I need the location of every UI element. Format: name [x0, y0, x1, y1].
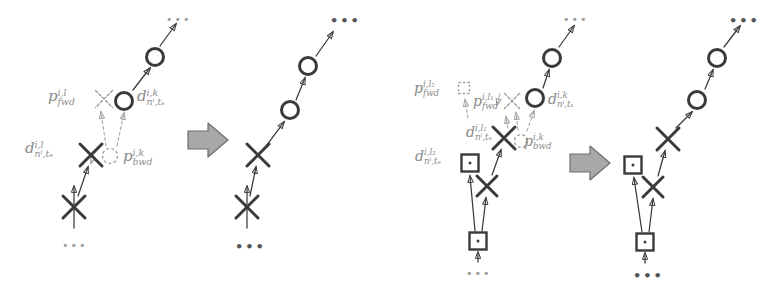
label-subscript: bwd: [133, 157, 153, 166]
label-base-symbol: p: [123, 147, 133, 165]
circle-marker: [300, 58, 317, 75]
label-subscript: fwd: [58, 97, 75, 106]
circle-marker: [689, 92, 706, 109]
track-link-arrow: [470, 176, 475, 231]
label-base-symbol: d: [415, 148, 424, 164]
label-subscript: nⁱ,tₑ: [35, 149, 53, 158]
ellipsis-continuation: •••: [235, 240, 266, 253]
cross-marker: [643, 177, 663, 197]
proposed-link-arrow: [101, 112, 106, 146]
p-fwd-l1-label: pi,l₁fwd: [473, 93, 498, 110]
circle-marker: [709, 50, 726, 67]
track-link-arrow: [724, 26, 740, 47]
cross-marker: [657, 128, 679, 150]
ellipsis-continuation: •••: [62, 240, 87, 251]
proposed-link-arrow: [527, 111, 534, 131]
ghost-circle-marker: [103, 149, 118, 164]
label-subscript: bwd: [533, 142, 552, 151]
label-base-symbol: d: [25, 139, 35, 157]
track-link-arrow: [78, 167, 88, 196]
track-link-arrow: [250, 167, 256, 196]
circle-marker: [282, 102, 299, 119]
ghost-cross-marker: [505, 94, 520, 109]
proposed-link-arrow: [506, 117, 508, 128]
label-base-symbol: p: [524, 133, 533, 149]
square-center-dot: [477, 240, 480, 243]
track-link-arrow: [316, 32, 333, 56]
track-link-arrow: [492, 150, 501, 175]
d-end-l2-label: di,l₂nⁱ,tₑ: [415, 148, 441, 165]
track-link-arrow: [658, 151, 665, 176]
track-link-arrow: [266, 122, 284, 146]
track-link-arrow: [649, 199, 653, 232]
proposed-link-arrow: [117, 113, 124, 146]
d-end-l1-label: di,l₁nⁱ,tₑ: [466, 124, 492, 141]
p-fwd-l2-label: pi,l₂fwd: [414, 80, 439, 97]
label-subscript: nⁱ,tₑ: [475, 133, 492, 142]
p-bwd-label: pi,kbwd: [123, 148, 152, 167]
transform-arrow-1: [188, 123, 228, 157]
label-base-symbol: d: [137, 87, 147, 105]
ellipsis-continuation: •••: [330, 14, 361, 27]
ellipsis-continuation: •••: [563, 14, 588, 25]
label-base-symbol: d: [466, 124, 475, 140]
ghost-square-marker: [459, 83, 470, 94]
p-bwd-label-2: pi,kbwd: [524, 133, 552, 150]
square-marker: [637, 234, 654, 251]
square-marker: [470, 233, 487, 250]
transform-arrow-2: [570, 146, 610, 180]
ghost-cross-marker: [96, 91, 113, 108]
label-subscript: nⁱ,tₑ: [424, 157, 441, 166]
label-base-symbol: p: [473, 93, 482, 109]
ellipsis-continuation: •••: [466, 268, 491, 279]
cross-marker: [247, 144, 269, 166]
square-marker: [462, 155, 479, 172]
track-link-arrow: [705, 70, 713, 89]
track-link-arrow: [482, 198, 486, 231]
label-base-symbol: p: [48, 87, 58, 105]
circle-marker: [527, 90, 544, 107]
track-link-arrow: [559, 26, 574, 47]
proposed-link-arrow: [465, 100, 468, 118]
square-marker: [625, 157, 642, 174]
track-link-arrow: [676, 112, 692, 128]
track-link-arrow: [634, 178, 642, 232]
square-center-dot: [644, 241, 647, 244]
vector-layer: [0, 0, 777, 285]
ellipsis-continuation: •••: [166, 14, 191, 25]
label-base-symbol: p: [414, 80, 423, 96]
square-center-dot: [469, 162, 472, 165]
d-end-label: di,lnⁱ,tₑ: [25, 140, 53, 159]
label-subscript: fwd: [482, 102, 498, 111]
cross-marker: [477, 176, 497, 196]
d-start-label: di,knⁱ,tₛ: [137, 88, 164, 107]
label-subscript: nⁱ,tₛ: [147, 97, 165, 106]
track-link-arrow: [543, 70, 549, 88]
ellipsis-continuation: •••: [729, 14, 760, 27]
square-center-dot: [632, 164, 635, 167]
circle-marker: [147, 49, 164, 66]
figure-canvas: ••••••pi,lfwddi,knⁱ,tₛdi,lnⁱ,tₑpi,kbwd••…: [0, 0, 777, 285]
circle-marker: [544, 50, 561, 67]
p-fwd-label: pi,lfwd: [48, 88, 75, 107]
cross-marker: [493, 127, 515, 149]
label-base-symbol: d: [548, 91, 557, 107]
ellipsis-continuation: •••: [633, 269, 664, 282]
track-link-arrow: [160, 24, 176, 46]
label-subscript: nⁱ,tₛ: [557, 100, 574, 109]
circle-marker: [116, 93, 133, 110]
d-start-label-2: di,knⁱ,tₛ: [548, 91, 573, 108]
label-subscript: fwd: [423, 89, 439, 98]
track-link-arrow: [296, 78, 305, 100]
